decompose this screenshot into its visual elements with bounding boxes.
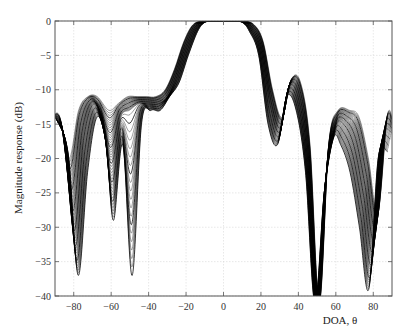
y-tick-label: −15	[35, 119, 51, 130]
x-tick-label: −80	[66, 301, 82, 312]
x-tick-label: −40	[141, 301, 157, 312]
x-tick-label: 80	[368, 301, 378, 312]
grid-lines	[55, 21, 392, 296]
y-tick-label: −20	[35, 153, 51, 164]
y-tick-label: 0	[46, 16, 51, 27]
y-tick-label: −25	[35, 187, 51, 198]
x-axis-title: DOA, θ	[323, 314, 358, 326]
x-tick-label: −60	[103, 301, 119, 312]
x-axis-ticks: −80−60−40−20020406080	[66, 21, 378, 312]
x-tick-label: −20	[178, 301, 194, 312]
y-tick-label: −30	[35, 222, 51, 233]
y-axis-title: Magnitude response (dB)	[12, 102, 25, 214]
x-tick-label: 0	[221, 301, 226, 312]
x-tick-label: 60	[331, 301, 341, 312]
x-tick-label: 40	[293, 301, 303, 312]
beam-pattern-chart: −80−60−40−20020406080 0−5−10−15−20−25−30…	[0, 0, 410, 336]
x-tick-label: 20	[256, 301, 266, 312]
y-tick-label: −40	[35, 291, 51, 302]
pattern-curves	[55, 20, 392, 302]
y-tick-label: −35	[35, 256, 51, 267]
y-tick-label: −10	[35, 84, 51, 95]
y-tick-label: −5	[40, 50, 51, 61]
